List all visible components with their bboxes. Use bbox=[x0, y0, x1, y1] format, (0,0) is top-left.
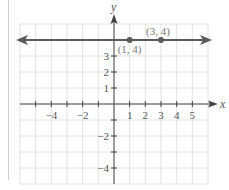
x-tick-label: 2 bbox=[143, 109, 149, 121]
y-tick-label: −4 bbox=[97, 162, 109, 174]
y-tick-label: 1 bbox=[104, 82, 110, 94]
x-axis-label: x bbox=[219, 97, 226, 111]
x-tick-label: 3 bbox=[158, 109, 164, 121]
x-tick-label: −4 bbox=[45, 109, 57, 121]
point-label-1-4: (1, 4) bbox=[118, 43, 142, 56]
x-tick-label: 1 bbox=[127, 109, 133, 121]
point-label-3-4: (3, 4) bbox=[146, 25, 170, 38]
y-axis-label: y bbox=[110, 0, 117, 14]
x-tick-label: 4 bbox=[174, 109, 180, 121]
x-tick-label: −2 bbox=[77, 109, 89, 121]
x-tick-label: 5 bbox=[190, 109, 196, 121]
coordinate-plane: xy−4−212345321−2−4(1, 4)(3, 4) bbox=[0, 0, 229, 190]
data-point bbox=[158, 37, 164, 43]
y-tick-label: 2 bbox=[104, 66, 110, 78]
y-tick-label: −2 bbox=[97, 130, 109, 142]
y-tick-label: 3 bbox=[104, 50, 110, 62]
